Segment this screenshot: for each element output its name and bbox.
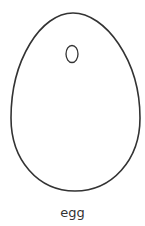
egg-outline [11,13,140,191]
egg-drawing [0,0,145,226]
figure-caption: egg [0,205,145,220]
egg-hole-circle [66,46,78,63]
